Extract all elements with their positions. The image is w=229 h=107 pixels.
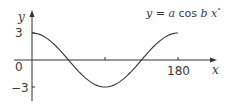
equation-label: y = a cos b x° <box>145 7 221 20</box>
y-tick-label-3: 3 <box>15 26 23 40</box>
x-tick-label-180: 180 <box>167 64 190 78</box>
cosine-graph: y 3 0 −3 180 x y = a cos b x° <box>0 0 229 107</box>
y-tick-label-minus3: −3 <box>11 81 29 95</box>
y-axis-label: y <box>17 10 25 24</box>
origin-label: 0 <box>15 60 23 74</box>
x-axis-label: x <box>212 63 219 77</box>
x-axis-arrow-icon <box>210 58 217 63</box>
y-axis-arrow-icon <box>30 10 35 17</box>
